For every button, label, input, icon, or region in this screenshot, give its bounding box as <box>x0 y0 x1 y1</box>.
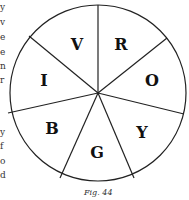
sector-label-g: G <box>90 143 104 162</box>
sector-label-y: Y <box>135 123 148 142</box>
figure-caption: Fig. 44 <box>84 188 113 197</box>
sector-label-b: B <box>45 119 59 138</box>
sector-label-o: O <box>145 71 159 90</box>
sector-label-r: R <box>114 35 128 54</box>
color-wheel-diagram: V R O Y G B I <box>0 0 189 200</box>
sector-label-i: I <box>40 71 47 90</box>
sector-label-v: V <box>70 35 84 54</box>
